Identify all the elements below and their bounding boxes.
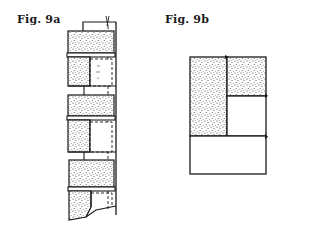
fig9a-block-1	[67, 31, 116, 86]
figure-9b-diagram	[190, 55, 268, 174]
fig9a-block-3	[68, 160, 116, 220]
fig9a-block-2	[67, 95, 116, 152]
figure-9a-diagram	[67, 16, 116, 220]
